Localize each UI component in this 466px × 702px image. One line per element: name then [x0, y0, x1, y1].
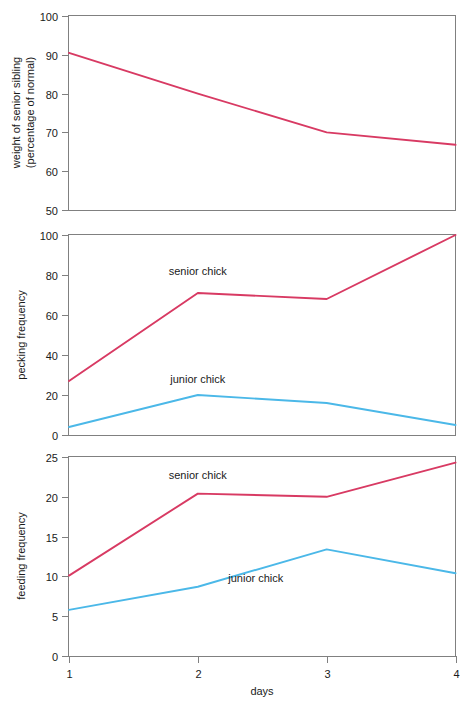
y-tick-label: 20: [46, 492, 58, 504]
y-tick-label: 5: [52, 611, 58, 623]
y-tick-label: 15: [46, 532, 58, 544]
x-axis-title: days: [250, 685, 274, 697]
x-axis-ticks-bottom: [70, 656, 457, 663]
x-tick-label: 3: [324, 668, 330, 680]
y-tick-label: 100: [40, 230, 58, 242]
chart-panel-feeding: 0510152025 1234 senior chickjunior chick…: [0, 452, 466, 702]
y-axis-title-top-line2: (percentage of normal): [24, 57, 36, 168]
data-line-senior-chick: [69, 463, 456, 576]
three-panel-line-chart-figure: 5060708090100 weight of senior sibling (…: [0, 0, 466, 702]
y-axis-title-bottom: feeding frequency: [15, 512, 27, 600]
series-annotation-junior-chick: junior chick: [227, 572, 284, 584]
y-tick-label: 70: [46, 127, 58, 139]
y-tick-label: 60: [46, 310, 58, 322]
chart-panel-pecking: 020406080100 senior chickjunior chick pe…: [0, 228, 466, 443]
y-axis-ticks-bottom: [62, 458, 69, 657]
y-axis-ticks-top: [62, 17, 69, 211]
chart-panel-weight: 5060708090100 weight of senior sibling (…: [0, 0, 466, 225]
y-tick-label: 100: [40, 11, 58, 23]
y-axis-tick-labels-bottom: 0510152025: [46, 452, 58, 663]
y-tick-label: 40: [46, 350, 58, 362]
y-tick-label: 60: [46, 166, 58, 178]
x-tick-label: 1: [66, 668, 72, 680]
data-line-junior-chick: [69, 395, 456, 427]
y-axis-ticks-middle: [62, 236, 69, 436]
series-annotation-senior-chick: senior chick: [169, 265, 228, 277]
series-annotation-senior-chick: senior chick: [169, 469, 228, 481]
x-tick-label: 4: [453, 668, 459, 680]
data-line-senior-chick: [69, 235, 456, 381]
y-tick-label: 0: [52, 651, 58, 663]
plot-frame-bottom: [69, 457, 456, 657]
y-axis-tick-labels-middle: 020406080100: [40, 230, 58, 442]
y-axis-title-top-line1: weight of senior sibling: [10, 57, 22, 169]
x-tick-label: 2: [195, 668, 201, 680]
data-series-group-top: [69, 53, 456, 145]
y-tick-label: 10: [46, 571, 58, 583]
y-axis-tick-labels-top: 5060708090100: [40, 11, 58, 217]
x-axis-tick-labels-bottom: 1234: [66, 668, 459, 680]
y-tick-label: 0: [52, 430, 58, 442]
data-series-group-bottom: [69, 463, 456, 610]
data-series-group-middle: [69, 235, 456, 427]
y-tick-label: 90: [46, 50, 58, 62]
y-tick-label: 25: [46, 452, 58, 464]
y-axis-title-middle: pecking frequency: [15, 290, 27, 380]
series-annotation-junior-chick: junior chick: [169, 373, 226, 385]
y-tick-label: 50: [46, 205, 58, 217]
series-annotations-middle: senior chickjunior chick: [169, 265, 228, 385]
y-tick-label: 20: [46, 390, 58, 402]
y-tick-label: 80: [46, 270, 58, 282]
y-tick-label: 80: [46, 89, 58, 101]
data-line-senior-sibling-weight: [69, 53, 456, 145]
